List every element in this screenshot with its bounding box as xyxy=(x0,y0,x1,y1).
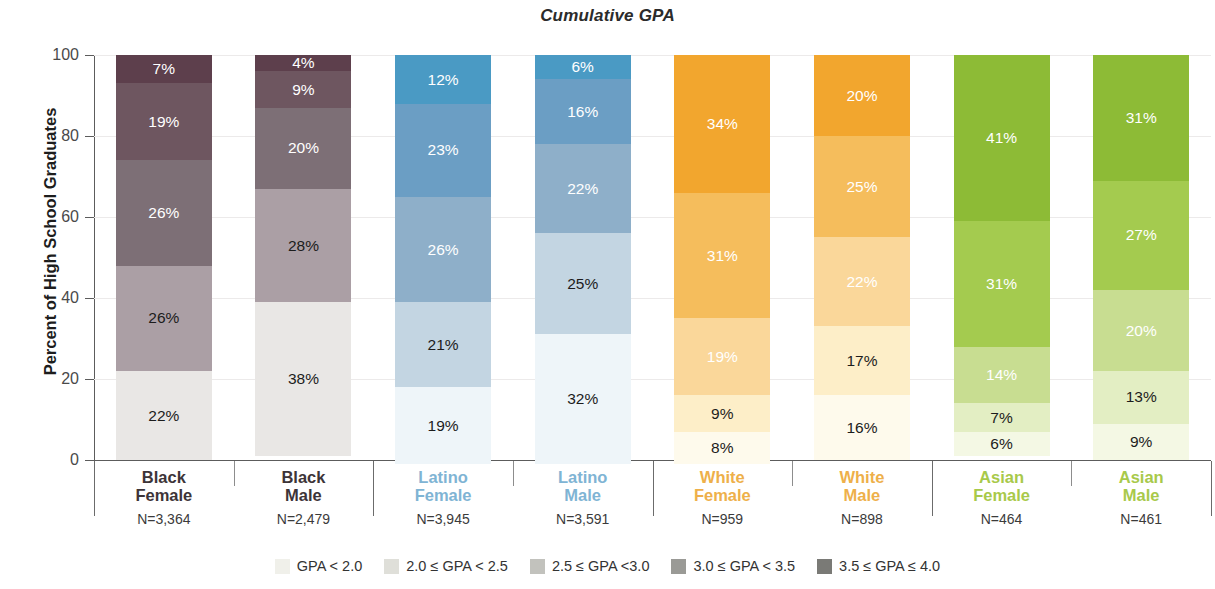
bar-segment[interactable]: 25% xyxy=(535,233,631,334)
bar-segment[interactable]: 14% xyxy=(954,347,1050,404)
category-divider xyxy=(373,461,374,516)
bar-segment[interactable]: 19% xyxy=(674,318,770,395)
category-label: White Male xyxy=(792,468,932,505)
bar-segment[interactable]: 19% xyxy=(116,83,212,160)
bar-segment[interactable]: 6% xyxy=(954,432,1050,456)
bar-segment[interactable]: 6% xyxy=(535,55,631,79)
category-divider xyxy=(932,461,933,516)
segment-value-label: 12% xyxy=(428,72,459,88)
segment-value-label: 4% xyxy=(292,55,314,71)
segment-value-label: 20% xyxy=(1126,323,1157,339)
segment-value-label: 9% xyxy=(292,82,314,98)
legend-label: 3.5 ≤ GPA ≤ 4.0 xyxy=(839,558,940,574)
segment-value-label: 25% xyxy=(846,179,877,195)
bar-segment[interactable]: 26% xyxy=(116,160,212,265)
bar-segment[interactable]: 41% xyxy=(954,55,1050,221)
bar-segment[interactable]: 7% xyxy=(116,55,212,83)
bar-segment[interactable]: 26% xyxy=(395,197,491,302)
bar-segment[interactable]: 16% xyxy=(814,395,910,460)
bar-segment[interactable]: 16% xyxy=(535,79,631,144)
legend: GPA < 2.02.0 ≤ GPA < 2.52.5 ≤ GPA <3.03.… xyxy=(0,558,1215,574)
bar-segment[interactable]: 26% xyxy=(116,266,212,371)
segment-value-label: 27% xyxy=(1126,227,1157,243)
segment-value-label: 31% xyxy=(986,276,1017,292)
bar-segment[interactable]: 20% xyxy=(1093,290,1189,371)
y-tick-label: 60 xyxy=(19,208,79,226)
segment-value-label: 22% xyxy=(846,274,877,290)
category-sample-size: N=3,364 xyxy=(94,511,234,527)
bar-asian-male[interactable]: 31%27%20%13%9% xyxy=(1093,55,1189,460)
legend-item[interactable]: 3.0 ≤ GPA < 3.5 xyxy=(671,558,795,574)
segment-value-label: 22% xyxy=(567,181,598,197)
bar-segment[interactable]: 38% xyxy=(255,302,351,456)
legend-label: 2.5 ≤ GPA <3.0 xyxy=(552,558,650,574)
legend-item[interactable]: GPA < 2.0 xyxy=(275,558,362,574)
segment-value-label: 6% xyxy=(990,436,1012,452)
bar-segment[interactable]: 32% xyxy=(535,334,631,464)
y-tick-label: 40 xyxy=(19,289,79,307)
legend-item[interactable]: 2.0 ≤ GPA < 2.5 xyxy=(384,558,508,574)
bar-segment[interactable]: 28% xyxy=(255,189,351,302)
segment-value-label: 31% xyxy=(707,248,738,264)
bar-segment[interactable]: 17% xyxy=(814,326,910,395)
bar-segment[interactable]: 22% xyxy=(535,144,631,233)
category-divider xyxy=(513,461,514,486)
segment-value-label: 22% xyxy=(148,408,179,424)
category-sample-size: N=461 xyxy=(1071,511,1211,527)
bar-asian-female[interactable]: 41%31%14%7%6% xyxy=(954,55,1050,460)
legend-item[interactable]: 3.5 ≤ GPA ≤ 4.0 xyxy=(817,558,940,574)
bar-white-male[interactable]: 20%25%22%17%16% xyxy=(814,55,910,460)
segment-value-label: 32% xyxy=(567,391,598,407)
bar-latino-female[interactable]: 12%23%26%21%19% xyxy=(395,55,491,460)
bar-white-female[interactable]: 34%31%19%9%8% xyxy=(674,55,770,460)
category-asian-male: Asian MaleN=461 xyxy=(1071,461,1211,527)
category-sample-size: N=898 xyxy=(792,511,932,527)
segment-value-label: 20% xyxy=(846,88,877,104)
bar-segment[interactable]: 12% xyxy=(395,55,491,104)
bar-segment[interactable]: 34% xyxy=(674,55,770,193)
bar-black-male[interactable]: 4%9%20%28%38% xyxy=(255,55,351,460)
bar-segment[interactable]: 20% xyxy=(255,108,351,189)
bar-black-female[interactable]: 7%19%26%26%22% xyxy=(116,55,212,460)
segment-value-label: 34% xyxy=(707,116,738,132)
category-white-female: White FemaleN=959 xyxy=(653,461,793,527)
category-divider xyxy=(1071,461,1072,486)
y-tick-mark xyxy=(85,136,94,137)
segment-value-label: 31% xyxy=(1126,110,1157,126)
bar-segment[interactable]: 9% xyxy=(674,395,770,431)
segment-value-label: 23% xyxy=(428,142,459,158)
category-sample-size: N=3,945 xyxy=(373,511,513,527)
bar-segment[interactable]: 19% xyxy=(395,387,491,464)
bar-segment[interactable]: 22% xyxy=(814,237,910,326)
bar-segment[interactable]: 8% xyxy=(674,432,770,464)
bar-segment[interactable]: 27% xyxy=(1093,181,1189,290)
bar-segment[interactable]: 20% xyxy=(814,55,910,136)
bar-segment[interactable]: 7% xyxy=(954,403,1050,431)
legend-item[interactable]: 2.5 ≤ GPA <3.0 xyxy=(530,558,650,574)
bar-segment[interactable]: 9% xyxy=(255,71,351,107)
category-divider xyxy=(234,461,235,486)
bar-segment[interactable]: 31% xyxy=(954,221,1050,347)
y-tick-mark xyxy=(85,298,94,299)
category-latino-female: Latino FemaleN=3,945 xyxy=(373,461,513,527)
segment-value-label: 8% xyxy=(711,440,733,456)
bar-segment[interactable]: 31% xyxy=(674,193,770,319)
bar-segment[interactable]: 23% xyxy=(395,104,491,197)
legend-swatch-icon xyxy=(275,559,290,574)
segment-value-label: 38% xyxy=(288,371,319,387)
bar-segment[interactable]: 31% xyxy=(1093,55,1189,181)
bar-segment[interactable]: 22% xyxy=(116,371,212,460)
bar-segment[interactable]: 25% xyxy=(814,136,910,237)
bar-segment[interactable]: 4% xyxy=(255,55,351,71)
legend-label: GPA < 2.0 xyxy=(297,558,362,574)
bar-latino-male[interactable]: 6%16%22%25%32% xyxy=(535,55,631,460)
segment-value-label: 19% xyxy=(428,418,459,434)
category-divider xyxy=(94,461,95,516)
bar-segment[interactable]: 21% xyxy=(395,302,491,387)
segment-value-label: 26% xyxy=(148,205,179,221)
segment-value-label: 41% xyxy=(986,130,1017,146)
bar-segment[interactable]: 9% xyxy=(1093,424,1189,460)
category-label: Asian Male xyxy=(1071,468,1211,505)
bar-segment[interactable]: 13% xyxy=(1093,371,1189,424)
category-label: White Female xyxy=(653,468,793,505)
